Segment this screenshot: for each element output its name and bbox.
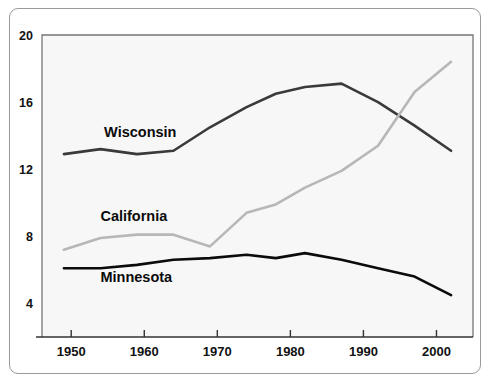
y-tick-label: 8	[26, 230, 33, 244]
x-tick-label: 1950	[57, 344, 86, 359]
plot-area-background	[42, 35, 473, 337]
y-tick-label: 12	[19, 163, 33, 177]
line-chart: 48121620 195019601970198019902000 Wiscon…	[0, 0, 496, 385]
y-tick-label: 20	[19, 29, 33, 43]
x-axis-tick-labels: 195019601970198019902000	[57, 344, 451, 359]
series-label-california: California	[100, 208, 168, 224]
x-tick-label: 2000	[422, 344, 451, 359]
x-tick-label: 1960	[130, 344, 159, 359]
series-label-wisconsin: Wisconsin	[104, 124, 176, 140]
y-axis-tick-labels: 48121620	[19, 29, 33, 311]
y-tick-label: 4	[26, 297, 33, 311]
x-tick-label: 1980	[276, 344, 305, 359]
x-tick-label: 1970	[203, 344, 232, 359]
series-label-minnesota: Minnesota	[100, 269, 173, 285]
figure-root: .... 48121620 195019601970198019902000 W…	[0, 0, 496, 385]
x-tick-label: 1990	[349, 344, 378, 359]
y-tick-label: 16	[19, 96, 33, 110]
